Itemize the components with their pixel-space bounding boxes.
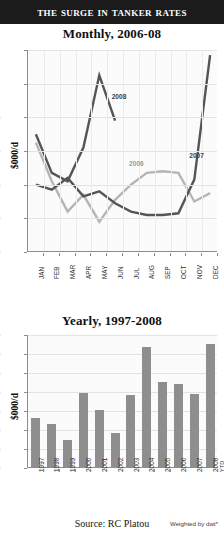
- title-banner: The Surge in Tanker Rates: [0, 0, 224, 24]
- grid-line-vertical: [44, 50, 45, 251]
- x-axis-tick-mark: [138, 469, 139, 472]
- x-axis-tick-label: MAR: [69, 265, 76, 279]
- page-title: The Surge in Tanker Rates: [37, 4, 187, 20]
- y-axis-tick-mark: [24, 411, 27, 412]
- x-axis-tick-mark: [59, 469, 60, 472]
- monthly-plot-area: [27, 50, 217, 252]
- monthly-y-axis-title: $000/d: [10, 142, 20, 169]
- x-axis-tick-mark: [122, 469, 123, 472]
- x-axis-tick-label: JUN: [117, 266, 124, 279]
- x-axis-tick-mark: [75, 253, 76, 256]
- y-axis-tick-mark: [24, 117, 27, 118]
- x-axis-tick-label: NOV: [196, 265, 203, 279]
- weighting-note: Weighted by dwt*: [170, 520, 218, 527]
- grid-line: [28, 354, 217, 355]
- grid-line-vertical: [60, 50, 61, 251]
- x-axis-tick-label-sub: YTD: [219, 458, 224, 472]
- y-axis-tick-mark: [24, 252, 27, 253]
- x-axis-tick-mark: [170, 469, 171, 472]
- series-annotation-2007: 2007: [189, 152, 204, 159]
- y-axis-tick-mark: [24, 84, 27, 85]
- grid-line-vertical: [91, 50, 92, 251]
- y-axis-tick-mark: [24, 354, 27, 355]
- y-axis-tick-mark: [24, 50, 27, 51]
- x-axis-tick-mark: [90, 253, 91, 256]
- x-axis-tick-mark: [217, 469, 218, 472]
- y-axis-tick-mark: [24, 373, 27, 374]
- x-axis-tick-mark: [43, 253, 44, 256]
- x-axis-tick-mark: [170, 253, 171, 256]
- yearly-y-axis-title: $000/d: [10, 393, 20, 420]
- x-axis-tick-label: JAN: [38, 267, 45, 279]
- x-axis-tick-mark: [106, 469, 107, 472]
- x-axis-tick-label: MAY: [101, 266, 108, 279]
- grid-line-vertical: [139, 50, 140, 251]
- y-axis-tick-mark: [24, 218, 27, 219]
- grid-line-vertical: [76, 50, 77, 251]
- yearly-plot-area: [27, 335, 217, 468]
- x-axis-tick-mark: [154, 253, 155, 256]
- grid-line-vertical: [186, 50, 187, 251]
- bar: [142, 347, 151, 467]
- x-axis-tick-mark: [201, 469, 202, 472]
- grid-line: [28, 449, 217, 450]
- bar: [190, 394, 199, 467]
- x-axis-tick-label: DEC: [212, 265, 219, 279]
- x-axis-tick-label: APR: [85, 266, 92, 279]
- x-axis-tick-label: OCT: [180, 265, 187, 279]
- x-axis-tick-mark: [154, 469, 155, 472]
- x-axis-tick-mark: [138, 253, 139, 256]
- grid-line: [28, 430, 217, 431]
- x-axis-tick-mark: [59, 253, 60, 256]
- x-axis-tick-mark: [75, 469, 76, 472]
- bar: [206, 344, 215, 468]
- monthly-chart-title: Monthly, 2006-08: [0, 26, 224, 42]
- y-axis-tick-mark: [24, 185, 27, 186]
- x-axis-tick-mark: [185, 469, 186, 472]
- series-annotation-2008: 2008: [112, 93, 127, 100]
- grid-line-vertical: [107, 50, 108, 251]
- x-axis-tick-label: FEB: [53, 266, 60, 279]
- x-axis-tick-mark: [217, 253, 218, 256]
- grid-line: [28, 411, 217, 412]
- bar: [126, 395, 135, 467]
- bar: [158, 382, 167, 467]
- grid-line-vertical: [155, 50, 156, 251]
- yearly-chart-title: Yearly, 1997-2008: [0, 313, 224, 329]
- x-axis-tick-label: JUL: [133, 268, 140, 280]
- x-axis-tick-mark: [90, 469, 91, 472]
- grid-line: [28, 392, 217, 393]
- x-axis-tick-label: AUG: [148, 265, 155, 279]
- x-axis-tick-mark: [185, 253, 186, 256]
- y-axis-tick-mark: [24, 449, 27, 450]
- x-axis-tick-mark: [106, 253, 107, 256]
- bar: [79, 393, 88, 467]
- infographic-page: The Surge in Tanker Rates Monthly, 2006-…: [0, 0, 224, 546]
- y-axis-tick-mark: [24, 392, 27, 393]
- series-annotation-2006: 2006: [129, 160, 144, 167]
- y-axis-tick-mark: [24, 468, 27, 469]
- y-axis-tick-mark: [24, 430, 27, 431]
- x-axis-tick-mark: [201, 253, 202, 256]
- grid-line: [28, 335, 217, 336]
- bar: [174, 384, 183, 467]
- y-axis-tick-mark: [24, 335, 27, 336]
- x-axis-tick-label: SEP: [164, 266, 171, 279]
- grid-line-vertical: [202, 50, 203, 251]
- x-axis-tick-mark: [122, 253, 123, 256]
- y-axis-tick-mark: [24, 151, 27, 152]
- grid-line: [28, 373, 217, 374]
- grid-line-vertical: [171, 50, 172, 251]
- grid-line-vertical: [123, 50, 124, 251]
- x-axis-tick-mark: [43, 469, 44, 472]
